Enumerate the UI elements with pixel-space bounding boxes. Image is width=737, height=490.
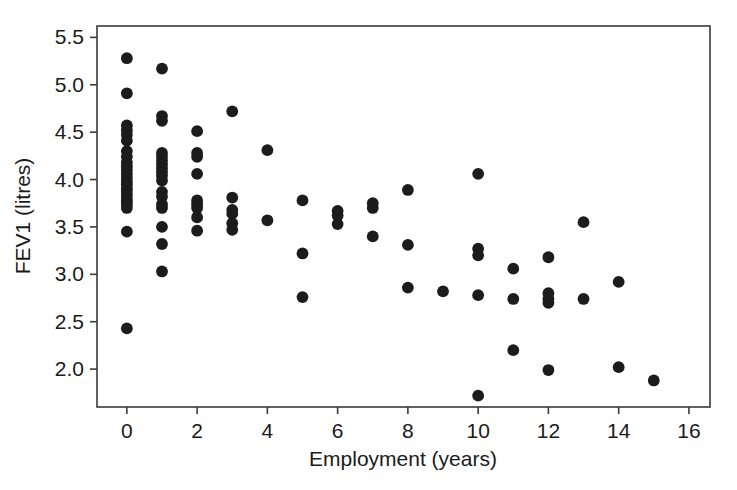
data-point	[367, 202, 379, 214]
x-axis-title: Employment (years)	[309, 447, 497, 470]
data-point	[156, 266, 168, 278]
data-point	[156, 115, 168, 127]
data-point	[402, 184, 414, 196]
x-tick-label: 6	[332, 419, 344, 442]
data-point	[613, 361, 625, 373]
data-point	[402, 239, 414, 251]
plot-canvas: 2.02.53.03.54.04.55.05.5 0246810121416 E…	[0, 0, 737, 490]
data-point	[156, 63, 168, 75]
y-tick-label: 3.5	[55, 215, 84, 238]
y-axis-tick-labels: 2.02.53.03.54.04.55.05.5	[55, 25, 84, 380]
data-point	[121, 226, 133, 238]
data-point	[226, 105, 238, 117]
data-point	[613, 276, 625, 288]
data-point	[261, 214, 273, 226]
data-point	[472, 249, 484, 261]
y-tick-label: 5.0	[55, 73, 84, 96]
data-point	[472, 168, 484, 180]
data-point	[191, 212, 203, 224]
data-point	[156, 221, 168, 233]
data-point	[543, 364, 555, 376]
data-point	[297, 248, 309, 260]
y-tick-label: 3.0	[55, 262, 84, 285]
data-point	[507, 293, 519, 305]
data-point	[226, 224, 238, 236]
data-point	[121, 322, 133, 334]
data-point	[226, 192, 238, 204]
data-point	[121, 87, 133, 99]
data-point	[543, 251, 555, 263]
scatter-plot-figure: 2.02.53.03.54.04.55.05.5 0246810121416 E…	[0, 0, 737, 490]
x-tick-label: 2	[191, 419, 203, 442]
data-point	[437, 285, 449, 297]
data-point	[402, 282, 414, 294]
data-point	[156, 175, 168, 187]
data-point	[507, 344, 519, 356]
y-axis-title: FEV1 (litres)	[11, 158, 34, 275]
x-tick-label: 0	[121, 419, 133, 442]
y-tick-label: 5.5	[55, 25, 84, 48]
x-tick-label: 16	[677, 419, 700, 442]
y-axis-ticks	[90, 37, 97, 369]
data-point	[472, 289, 484, 301]
data-point	[367, 231, 379, 243]
data-points-layer	[121, 52, 660, 401]
data-point	[578, 216, 590, 228]
data-point	[507, 263, 519, 275]
x-tick-label: 10	[466, 419, 489, 442]
data-point	[648, 375, 660, 387]
data-point	[578, 293, 590, 305]
plot-frame	[97, 26, 710, 407]
data-point	[156, 202, 168, 214]
x-tick-label: 12	[537, 419, 560, 442]
data-point	[261, 144, 273, 156]
data-point	[191, 225, 203, 237]
data-point	[543, 297, 555, 309]
data-point	[121, 202, 133, 214]
x-axis-ticks	[127, 407, 689, 414]
x-axis-tick-labels: 0246810121416	[121, 419, 701, 442]
data-point	[332, 218, 344, 230]
data-point	[297, 291, 309, 303]
x-tick-label: 14	[607, 419, 631, 442]
data-point	[156, 238, 168, 250]
data-point	[191, 125, 203, 137]
y-tick-label: 2.0	[55, 357, 84, 380]
data-point	[191, 151, 203, 163]
data-point	[472, 390, 484, 402]
data-point	[121, 52, 133, 64]
y-tick-label: 4.5	[55, 120, 84, 143]
y-tick-label: 2.5	[55, 310, 84, 333]
data-point	[297, 194, 309, 206]
x-tick-label: 4	[262, 419, 274, 442]
data-point	[121, 135, 133, 147]
data-point	[121, 151, 133, 163]
x-tick-label: 8	[402, 419, 414, 442]
y-tick-label: 4.0	[55, 168, 84, 191]
data-point	[191, 168, 203, 180]
